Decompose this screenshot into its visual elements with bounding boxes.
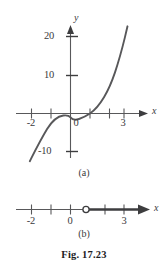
- x-tick-label-3: 3: [120, 118, 125, 129]
- cubic-curve: [30, 26, 128, 161]
- panel-a-label: (a): [78, 168, 89, 178]
- open-circle-endpoint-icon: [83, 206, 89, 212]
- y-tick-label-20: 20: [44, 31, 54, 42]
- x-tick-label-neg2: -2: [27, 118, 35, 129]
- y-tick-label-neg10: -10: [38, 146, 51, 157]
- y-axis-arrow-icon: [67, 25, 74, 34]
- x-tick-label-0: 0: [73, 118, 78, 129]
- panel-a-graph: [0, 0, 168, 190]
- y-axis-label: y: [74, 13, 78, 23]
- figure-17-23: -2 0 3 20 10 -10 y x (a) -2 0 3 x (b) Fi…: [0, 0, 168, 271]
- nl-tick-label-neg2: -2: [27, 216, 35, 227]
- x-axis-label-a: x: [152, 106, 156, 116]
- x-axis-arrow-icon: [139, 110, 148, 117]
- panel-b-label: (b): [78, 229, 90, 239]
- y-tick-label-10: 10: [44, 70, 54, 81]
- panel-b-number-line: [0, 192, 168, 232]
- nl-tick-label-3: 3: [121, 216, 126, 227]
- x-axis-label-b: x: [154, 203, 158, 213]
- figure-caption: Fig. 17.23: [61, 250, 106, 261]
- nl-tick-label-0: 0: [67, 216, 72, 227]
